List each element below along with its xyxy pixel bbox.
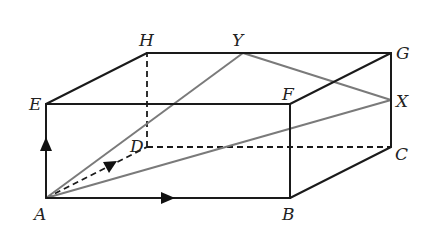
line-AX [46,100,391,198]
label-G: G [396,43,410,63]
arrow-right-icon [161,192,175,204]
label-C: C [395,144,408,164]
label-H: H [138,30,155,50]
edge-BC [290,147,391,198]
label-D: D [129,136,144,156]
edge-GF [290,53,391,104]
label-Y: Y [232,30,245,50]
cuboid-diagram: A B C D E F G H X Y [0,0,433,231]
arrow-diagonal-icon [103,161,117,173]
label-F: F [281,84,295,104]
arrow-up-icon [40,137,52,151]
label-E: E [28,94,42,114]
label-B: B [281,204,295,224]
edge-EH [46,53,147,104]
line-YX [243,53,391,100]
label-A: A [32,204,46,224]
line-AY [46,53,243,198]
label-X: X [394,91,409,111]
